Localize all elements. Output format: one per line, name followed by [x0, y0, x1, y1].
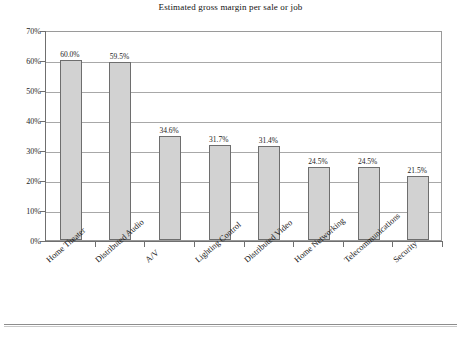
y-axis-tick-mark	[40, 151, 45, 152]
x-axis-tick-mark	[244, 241, 245, 247]
x-axis-category-label: Lighting Control	[193, 219, 243, 264]
y-axis-tick-mark	[40, 241, 45, 242]
bar-value-label: 24.5%	[358, 157, 377, 166]
x-axis-category-label: Security	[391, 238, 419, 264]
figure-bottom-rule-shadow	[4, 326, 457, 327]
bar-value-label: 31.4%	[259, 136, 278, 145]
y-axis-tick-mark	[40, 121, 45, 122]
bar-value-label: 60.0%	[60, 50, 79, 59]
x-axis-category-label: A/V	[143, 247, 161, 264]
x-axis-category-label: Home Networking	[292, 215, 346, 264]
x-axis-tick-mark	[442, 241, 443, 247]
bar-value-label: 34.6%	[159, 126, 178, 135]
x-axis-tick-mark	[95, 241, 96, 247]
bar-value-label: 31.7%	[209, 135, 228, 144]
x-axis-category-label: Distributed Audio	[93, 217, 146, 265]
x-axis-tick-mark	[194, 241, 195, 247]
x-axis-category-label: Home Theater	[44, 225, 87, 264]
x-axis-category-label: Distributed Video	[242, 217, 294, 264]
bar-value-label: 21.5%	[408, 166, 427, 175]
figure-bottom-rule	[4, 324, 457, 325]
x-axis-tick-mark	[343, 241, 344, 247]
x-axis-tick-mark	[392, 241, 393, 247]
y-axis-tick-mark	[40, 181, 45, 182]
x-axis-tick-mark	[144, 241, 145, 247]
y-axis-tick-mark	[40, 91, 45, 92]
bar-value-label: 24.5%	[308, 157, 327, 166]
y-axis-tick-mark	[40, 61, 45, 62]
chart-figure: Estimated gross margin per sale or job 0…	[0, 0, 461, 339]
x-axis-tick-mark	[293, 241, 294, 247]
y-axis-tick-mark	[40, 211, 45, 212]
bar-value-label: 59.5%	[110, 52, 129, 61]
y-axis-tick-mark	[40, 31, 45, 32]
